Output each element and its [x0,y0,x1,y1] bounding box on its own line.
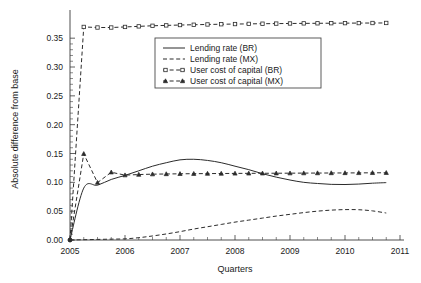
data-point-marker [261,22,264,25]
y-tick-label: 0.20 [46,120,63,130]
data-point-marker [206,23,209,26]
data-point-marker [110,26,113,29]
legend-label: Lending rate (BR) [190,43,257,53]
y-tick-label: 0.00 [46,235,63,245]
series-2 [70,210,386,240]
x-tick-label: 2010 [336,246,355,256]
legend-label: User cost of capital (MX) [190,76,283,86]
y-axis-title: Absolute difference from base [10,69,20,188]
chart-legend[interactable]: Lending rate (BR)Lending rate (MX)User c… [155,38,321,88]
y-tick-label: 0.30 [46,62,63,72]
data-point-marker [220,23,223,26]
x-axis-title: Quarters [217,264,253,274]
y-tick-label: 0.10 [46,177,63,187]
data-point-marker [343,21,346,24]
data-point-marker [247,22,250,25]
x-tick-label: 2006 [116,246,135,256]
data-point-marker [357,21,360,24]
x-tick-label: 2011 [391,246,410,256]
data-point-marker [288,22,291,25]
x-tick-label: 2008 [226,246,245,256]
series-4 [68,152,388,242]
x-tick-label: 2007 [171,246,190,256]
x-tick-label: 2005 [61,246,80,256]
data-point-marker [165,24,168,27]
data-point-marker [123,25,126,28]
y-tick-label: 0.15 [46,149,63,159]
data-point-marker [82,25,85,28]
legend-label: Lending rate (MX) [190,54,258,64]
data-point-marker [181,68,184,71]
data-point-marker [192,23,195,26]
data-point-marker [371,21,374,24]
data-point-marker [316,22,319,25]
data-point-marker [385,21,388,24]
data-point-marker [233,22,236,25]
data-point-marker [275,22,278,25]
chart-figure: 0.000.050.100.150.200.250.300.3520052006… [0,0,421,283]
data-point-marker [164,68,167,71]
series-1 [70,159,386,240]
line-chart: 0.000.050.100.150.200.250.300.3520052006… [0,0,421,283]
y-tick-label: 0.25 [46,91,63,101]
x-tick-label: 2009 [281,246,300,256]
data-point-marker [151,24,154,27]
data-point-marker [178,23,181,26]
y-tick-label: 0.35 [46,33,63,43]
data-point-marker [330,21,333,24]
data-point-marker [137,25,140,28]
origin-marker [68,238,72,242]
legend-label: User cost of capital (BR) [190,65,282,75]
data-point-marker [82,152,86,156]
data-point-marker [109,170,113,174]
data-point-marker [96,26,99,29]
y-tick-label: 0.05 [46,206,63,216]
data-point-marker [302,22,305,25]
